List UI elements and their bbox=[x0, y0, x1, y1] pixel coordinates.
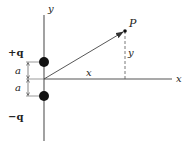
point-p-label: P bbox=[128, 17, 137, 30]
negative-charge bbox=[39, 91, 49, 101]
upper-a-label: a bbox=[15, 65, 21, 76]
y-distance-label: y bbox=[127, 47, 134, 58]
y-axis-label: y bbox=[47, 3, 54, 14]
point-p bbox=[123, 29, 127, 33]
positive-charge bbox=[39, 57, 49, 67]
negative-charge-label: −q bbox=[8, 111, 23, 122]
x-axis-label: x bbox=[176, 73, 182, 84]
dimension-markers bbox=[26, 62, 44, 96]
lower-a-label: a bbox=[15, 82, 21, 93]
dipole-diagram: y x a a +q −q P y x bbox=[0, 0, 190, 146]
positive-charge-label: +q bbox=[8, 47, 23, 58]
x-distance-label: x bbox=[86, 67, 92, 78]
position-vector-arrow bbox=[44, 32, 123, 79]
